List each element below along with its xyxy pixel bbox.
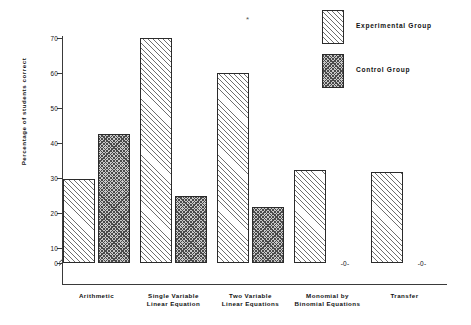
y-tick-label: 40 bbox=[50, 140, 58, 147]
bar-experimental-1 bbox=[140, 38, 172, 263]
x-axis-label-3: Monomial byBinomial Equations bbox=[295, 292, 361, 309]
bar-experimental-4 bbox=[371, 172, 403, 263]
x-axis-label-1: Single VariableLinear Equation bbox=[147, 292, 201, 309]
x-axis-label-line: Binomial Equations bbox=[295, 300, 361, 308]
x-axis-label-0: Arithmetic bbox=[79, 292, 114, 300]
y-tick-label: 70 bbox=[50, 35, 58, 42]
x-axis-label-line: Single Variable bbox=[147, 292, 201, 300]
x-axis-label-line: Linear Equations bbox=[222, 300, 279, 308]
x-axis-label-line: Linear Equation bbox=[147, 300, 201, 308]
asterisk-annotation: * bbox=[246, 15, 249, 24]
zero-value-marker-4: -0- bbox=[418, 260, 427, 267]
x-axis-label-line: Two Variable bbox=[222, 292, 279, 300]
bar-experimental-0 bbox=[63, 179, 95, 263]
legend-label-experimental: Experimental Group bbox=[356, 22, 432, 29]
bar-control-2 bbox=[252, 207, 284, 263]
plot-area: 010203040506070 -0--0- bbox=[62, 36, 447, 285]
y-tick-label: 50 bbox=[50, 105, 58, 112]
x-axis-label-line: Transfer bbox=[390, 292, 418, 300]
y-tick-label: 30 bbox=[50, 175, 58, 182]
x-axis-label-4: Transfer bbox=[390, 292, 418, 300]
y-tick-label: 10 bbox=[50, 245, 58, 252]
bar-experimental-3 bbox=[294, 170, 326, 263]
y-tick-label: 20 bbox=[50, 210, 58, 217]
bar-series-container: -0--0- bbox=[62, 36, 447, 285]
x-axis-label-2: Two VariableLinear Equations bbox=[222, 292, 279, 309]
bar-control-1 bbox=[175, 196, 207, 264]
y-tick-label: 60 bbox=[50, 70, 58, 77]
x-axis-label-line: Monomial by bbox=[295, 292, 361, 300]
bar-control-0 bbox=[98, 134, 130, 263]
bar-chart: Percentage of students correct * Experim… bbox=[0, 0, 471, 325]
zero-value-marker-3: -0- bbox=[341, 260, 350, 267]
x-axis-label-line: Arithmetic bbox=[79, 292, 114, 300]
y-axis-title: Percentage of students correct bbox=[20, 27, 27, 197]
bar-experimental-2 bbox=[217, 73, 249, 263]
